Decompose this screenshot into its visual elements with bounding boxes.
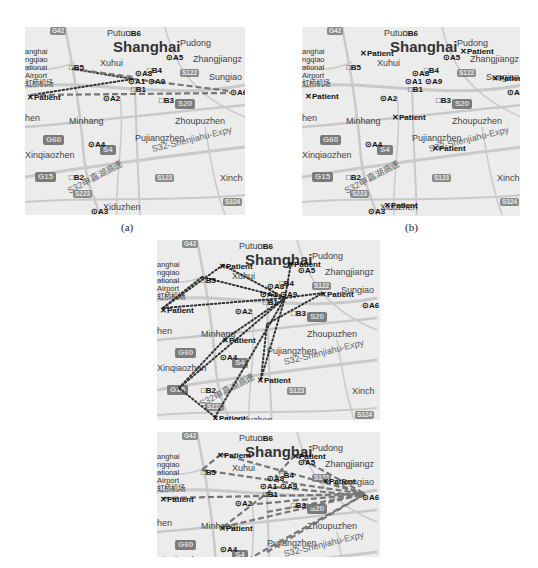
circle-marker-icon: ⊙ [220,546,227,554]
patient-marker[interactable]: ✕Patient [219,263,253,271]
marker-b2[interactable]: □B2 [201,387,216,395]
patient-label: Patient [34,93,61,102]
patient-x-icon: ✕ [392,113,399,122]
marker-b2[interactable]: □B2 [346,174,361,182]
marker-label: B1 [136,85,146,94]
map-panel-d: PutuoShanghaiPudongXuhuiZhangjiangzSungi… [157,432,380,557]
marker-label: B6 [263,434,273,443]
patient-marker[interactable]: ✕Patient [305,93,339,101]
marker-a2[interactable]: ⊙A2 [380,95,397,103]
marker-label: B3 [164,96,174,105]
marker-label: A6 [237,88,245,97]
circle-marker-icon: ⊙ [368,208,375,216]
circle-marker-icon: ⊙ [365,141,372,149]
marker-b5[interactable]: □B5 [69,64,84,72]
patient-label: Patient [312,92,339,101]
marker-a2[interactable]: ⊙A2 [235,500,252,508]
marker-label: B3 [441,96,451,105]
marker-b1[interactable]: □B1 [131,86,146,94]
marker-a6[interactable]: ⊙A6 [507,89,520,97]
circle-marker-icon: ⊙ [280,483,287,491]
marker-a6[interactable]: ⊙A6 [362,494,379,502]
patient-marker[interactable]: ✕Patient [360,50,394,58]
patient-marker[interactable]: ✕Patient [292,453,326,461]
marker-a9[interactable]: ⊙A9 [280,291,297,299]
marker-a9[interactable]: ⊙A9 [425,78,442,86]
patient-x-icon: ✕ [432,144,439,153]
marker-label: A6 [514,88,520,97]
patient-label: Patient [329,477,356,486]
patient-marker[interactable]: ✕Patient [160,307,194,315]
circle-marker-icon: ⊙ [230,89,237,97]
marker-b1[interactable]: □B1 [263,491,278,499]
patient-marker[interactable]: ✕Patient [492,75,520,83]
link-layer [25,27,245,215]
circle-marker-icon: ⊙ [443,54,450,62]
patient-marker[interactable]: ✕Patient [217,452,251,460]
patient-marker[interactable]: ✕Patient [219,525,253,533]
patient-label: Patient [294,260,321,269]
marker-b3[interactable]: □B3 [291,502,306,510]
marker-label: B5 [206,276,216,285]
marker-b2[interactable]: □B2 [69,174,84,182]
patient-marker[interactable]: ✕Patient [384,202,418,210]
patient-marker[interactable]: ✕Patient [212,415,246,420]
patient-x-icon: ✕ [360,49,367,58]
marker-a5[interactable]: ⊙A5 [166,54,183,62]
marker-b3[interactable]: □B3 [436,97,451,105]
patient-label: Patient [327,290,354,299]
marker-b6[interactable]: □B6 [126,30,141,38]
circle-marker-icon: ⊙ [280,291,287,299]
patient-label: Patient [219,414,246,420]
patient-x-icon: ✕ [492,74,499,83]
patient-marker[interactable]: ✕Patient [320,291,354,299]
patient-marker[interactable]: ✕Patient [287,261,321,269]
marker-label: A2 [387,94,397,103]
marker-a5[interactable]: ⊙A5 [443,54,460,62]
marker-b6[interactable]: □B6 [258,435,273,443]
marker-b1[interactable]: □B1 [408,86,423,94]
patient-marker[interactable]: ✕Patient [257,377,291,385]
patient-marker[interactable]: ✕Patient [392,114,426,122]
marker-b3[interactable]: □B3 [159,97,174,105]
patient-x-icon: ✕ [219,262,226,271]
marker-a9[interactable]: ⊙A9 [148,78,165,86]
marker-b3[interactable]: □B3 [291,310,306,318]
patient-marker[interactable]: ✕Patient [27,94,61,102]
marker-a3[interactable]: ⊙A3 [91,208,108,215]
marker-a6[interactable]: ⊙A6 [362,302,379,310]
marker-a4[interactable]: ⊙A4 [220,546,237,554]
circle-marker-icon: ⊙ [235,308,242,316]
patient-label: Patient [439,144,466,153]
marker-a4[interactable]: ⊙A4 [220,354,237,362]
marker-a6[interactable]: ⊙A6 [230,89,245,97]
marker-label: B1 [268,298,278,307]
patient-marker[interactable]: ✕Patient [322,478,356,486]
marker-label: B4 [284,471,294,480]
marker-a3[interactable]: ⊙A3 [368,208,385,216]
marker-a2[interactable]: ⊙A2 [235,308,252,316]
patient-x-icon: ✕ [212,414,219,420]
marker-b6[interactable]: □B6 [403,30,418,38]
marker-b5[interactable]: □B5 [201,277,216,285]
patient-label: Patient [264,376,291,385]
marker-label: A9 [432,77,442,86]
patient-marker[interactable]: ✕Patient [160,496,194,504]
marker-label: B2 [206,386,216,395]
marker-b5[interactable]: □B5 [346,64,361,72]
marker-b6[interactable]: □B6 [258,243,273,251]
marker-b5[interactable]: □B5 [201,469,216,477]
marker-label: B6 [263,242,273,251]
marker-label: A5 [450,53,460,62]
marker-a9[interactable]: ⊙A9 [280,483,297,491]
patient-marker[interactable]: ✕Patient [432,145,466,153]
marker-label: A4 [227,545,237,554]
marker-a4[interactable]: ⊙A4 [365,141,382,149]
marker-a4[interactable]: ⊙A4 [88,141,105,149]
marker-b1[interactable]: □B1 [263,299,278,307]
patient-x-icon: ✕ [219,524,226,533]
marker-a2[interactable]: ⊙A2 [103,95,120,103]
marker-label: B6 [131,29,141,38]
patient-marker[interactable]: ✕Patient [222,337,256,345]
patient-marker[interactable]: ✕Patient [460,48,494,56]
